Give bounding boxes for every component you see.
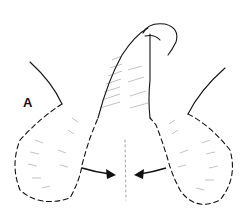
arrow-left-to-midline — [82, 168, 110, 174]
illustration: A — [0, 0, 249, 224]
panel-label: A — [23, 95, 32, 110]
thigh-contour-right — [188, 68, 225, 114]
arrow-right-to-midline — [140, 168, 166, 174]
thigh-contour-left — [30, 62, 62, 104]
midline-raphe — [125, 140, 126, 200]
dashed-incision-left — [15, 104, 98, 202]
dashed-incision-right — [150, 114, 232, 204]
